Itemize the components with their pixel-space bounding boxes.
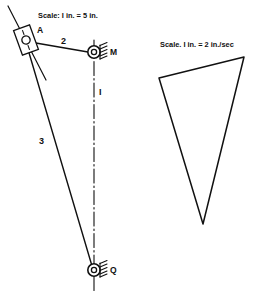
joint-Q-pin — [91, 267, 96, 272]
joint-Q-hatch-5 — [100, 274, 107, 277]
joint-label-M: M — [110, 47, 117, 57]
velocity-triangle-shape — [159, 57, 244, 224]
link-3-bar — [27, 46, 92, 266]
joint-Q-hatch-4 — [100, 271, 107, 274]
link-label-2: 2 — [61, 36, 66, 46]
joint-M-pin — [91, 49, 96, 54]
link-label-3: 3 — [39, 136, 44, 146]
joint-label-Q: Q — [110, 265, 117, 275]
joint-Q-hatch-2 — [100, 264, 107, 267]
joint-M-hatch-1 — [100, 43, 107, 46]
joint-label-A: A — [37, 25, 43, 35]
velocity-polygon-panel: Scale. I in. = 2 in./sec — [159, 40, 244, 224]
velocity-scale-note: Scale. I in. = 2 in./sec — [160, 40, 234, 49]
joint-M-hatch-3 — [100, 50, 107, 53]
joint-M — [88, 43, 107, 60]
link-2-bar — [30, 42, 88, 52]
figure-root: Scale: I in. = 5 in. A M Q 2 3 I Scale. … — [0, 0, 256, 304]
joint-M-hatch-4 — [100, 53, 107, 56]
joint-Q-hatch-1 — [100, 261, 107, 264]
joint-M-hatch-5 — [100, 56, 107, 59]
joint-Q-hatch-3 — [100, 268, 107, 271]
link-label-1-frame: I — [99, 87, 102, 97]
mechanism-panel: Scale: I in. = 5 in. A M Q 2 3 I — [8, 6, 117, 292]
joint-M-hatch-2 — [100, 46, 107, 49]
slider-block — [14, 25, 39, 55]
mechanism-scale-note: Scale: I in. = 5 in. — [38, 11, 98, 20]
kinematics-diagram-canvas: Scale: I in. = 5 in. A M Q 2 3 I Scale. … — [0, 0, 256, 304]
